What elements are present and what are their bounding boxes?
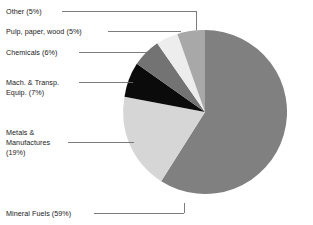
label-chemicals: Chemicals (6%) <box>6 48 57 57</box>
label-metals-manufactures-line1: Metals & <box>6 128 34 137</box>
label-metals-manufactures-line3: (19%) <box>6 148 25 157</box>
label-metals-manufactures-line2: Manufactures <box>6 138 50 147</box>
label-machinery-transport-line1: Mach. & Transp. <box>6 78 59 87</box>
label-pulp-paper-wood: Pulp, paper, wood (5%) <box>6 27 82 36</box>
label-other: Other (5%) <box>6 7 42 16</box>
pie-slices <box>123 30 287 194</box>
label-machinery-transport-line2: Equip. (7%) <box>6 88 44 97</box>
label-mineral-fuels: Mineral Fuels (59%) <box>6 209 71 218</box>
